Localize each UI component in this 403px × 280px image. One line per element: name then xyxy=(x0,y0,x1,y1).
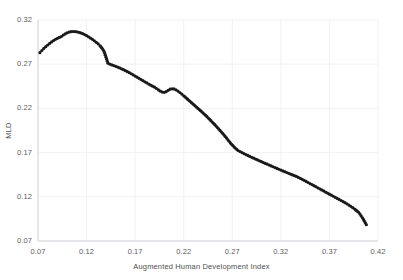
x-axis-tick-label: 0.07 xyxy=(21,247,55,256)
x-axis-title: Augmented Human Development Index xyxy=(0,262,403,271)
y-axis-tick-label: 0.27 xyxy=(4,59,32,68)
x-axis-tick-label: 0.42 xyxy=(361,247,395,256)
x-axis-tick-label: 0.12 xyxy=(70,247,104,256)
chart-plot-area xyxy=(0,0,403,280)
y-axis-tick-label: 0.12 xyxy=(4,192,32,201)
y-axis-tick-label: 0.07 xyxy=(4,236,32,245)
x-axis-tick-label: 0.32 xyxy=(264,247,298,256)
y-axis-title: MLD xyxy=(4,111,13,151)
x-axis-tick-label: 0.37 xyxy=(312,247,346,256)
x-axis-tick-label: 0.27 xyxy=(215,247,249,256)
x-axis-tick-label: 0.17 xyxy=(118,247,152,256)
chart-container: 0.070.120.170.220.270.32 0.070.120.170.2… xyxy=(0,0,403,280)
axis-lines xyxy=(38,20,378,241)
y-axis-tick-label: 0.32 xyxy=(4,15,32,24)
series-line-mld xyxy=(40,31,366,224)
x-axis-tick-label: 0.22 xyxy=(167,247,201,256)
data-point-marker xyxy=(365,223,368,226)
grid-lines xyxy=(38,20,378,241)
